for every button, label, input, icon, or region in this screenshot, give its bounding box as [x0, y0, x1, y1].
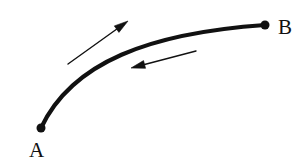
point-a-marker	[37, 124, 46, 133]
reverse-arrow-shaft	[143, 51, 196, 65]
point-b-label: B	[278, 15, 292, 39]
curved-path-diagram: A B	[0, 0, 301, 166]
point-a-label: A	[29, 138, 45, 162]
point-b-marker	[261, 21, 270, 30]
curve-path-a-to-b	[41, 25, 265, 128]
forward-arrow-head-icon	[114, 21, 128, 32]
diagram-canvas: A B	[0, 0, 301, 166]
reverse-arrow-head-icon	[131, 61, 146, 69]
